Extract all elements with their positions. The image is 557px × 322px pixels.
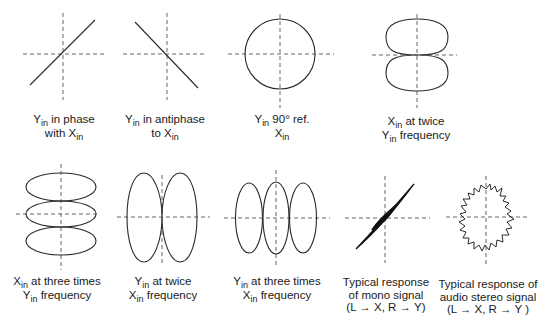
stereo-signal-trace (459, 184, 514, 251)
in-phase-trace (30, 20, 95, 85)
figure-label-x-three-times-y: Xin at three times Yin frequency (13, 275, 101, 302)
figure-label-y-twice-x: Yin at twice Xin frequency (129, 275, 197, 302)
figure-label-in-phase: Yin in phase with Xin (33, 113, 94, 140)
antiphase-trace (135, 22, 198, 88)
figure-label-stereo-signal: Typical response of audio stereo signal … (438, 278, 537, 316)
figure-label-ninety-degree: Yin 90° ref. Xin (254, 113, 309, 140)
lissajous-diagram (0, 0, 557, 322)
figure-label-y-three-times-x: Yin at three times Xin frequency (233, 275, 321, 302)
figure-label-antiphase: Yin in antiphase to Xin (125, 113, 205, 140)
figure-label-x-twice-y: Xin at twice Yin frequency (382, 115, 450, 142)
figure-label-mono-signal: Typical response of mono signal (L → X, … (343, 276, 429, 314)
